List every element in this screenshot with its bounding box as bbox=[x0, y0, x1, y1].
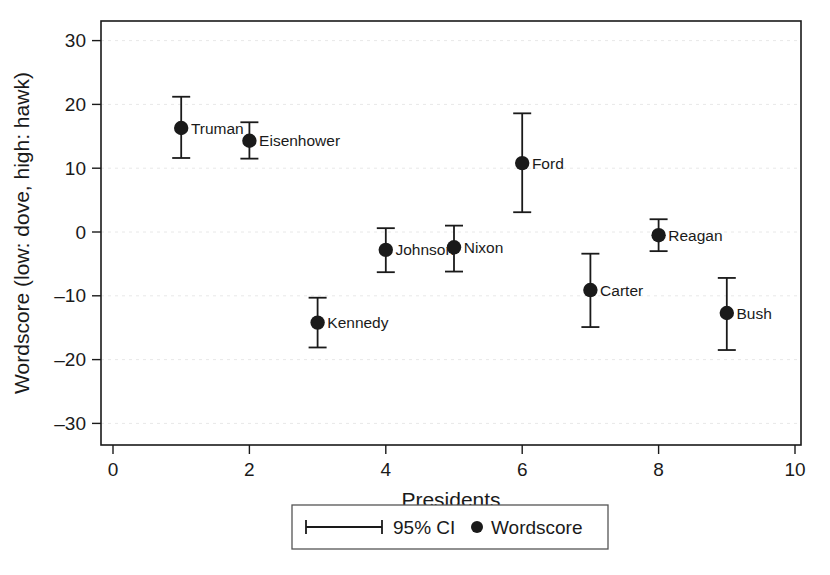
data-points: TrumanEisenhowerKennedyJohnsonNixonFordC… bbox=[172, 97, 772, 350]
x-tick-label-10: 10 bbox=[784, 459, 805, 480]
y-axis-title: Wordscore (low: dove, high: hawk) bbox=[10, 72, 33, 394]
x-axis-ticks: 0246810 bbox=[108, 445, 806, 480]
point-label-kennedy: Kennedy bbox=[327, 314, 388, 331]
y-axis-ticks: 3020100–10–20–30 bbox=[54, 30, 101, 434]
x-tick-label-8: 8 bbox=[653, 459, 664, 480]
data-point-nixon: Nixon bbox=[445, 226, 503, 272]
point-label-nixon: Nixon bbox=[464, 239, 504, 256]
marker-carter bbox=[583, 283, 597, 297]
marker-kennedy bbox=[310, 315, 324, 329]
point-label-truman: Truman bbox=[191, 120, 244, 137]
data-point-bush: Bush bbox=[718, 278, 772, 350]
marker-reagan bbox=[651, 228, 665, 242]
point-label-reagan: Reagan bbox=[668, 227, 722, 244]
y-tick-label--20: –20 bbox=[54, 349, 86, 370]
wordscore-presidents-figure: 3020100–10–20–30 0246810 Wordscore (low:… bbox=[0, 0, 830, 575]
y-tick-label-30: 30 bbox=[65, 30, 86, 51]
point-label-carter: Carter bbox=[600, 282, 643, 299]
legend-marker-dot bbox=[471, 521, 483, 533]
point-label-eisenhower: Eisenhower bbox=[259, 132, 340, 149]
data-point-carter: Carter bbox=[581, 254, 643, 327]
chart-canvas: 3020100–10–20–30 0246810 Wordscore (low:… bbox=[0, 0, 830, 575]
y-tick-label--30: –30 bbox=[54, 413, 86, 434]
y-tick-label-10: 10 bbox=[65, 158, 86, 179]
data-point-kennedy: Kennedy bbox=[309, 298, 389, 348]
x-tick-label-4: 4 bbox=[381, 459, 392, 480]
point-label-ford: Ford bbox=[532, 155, 564, 172]
marker-eisenhower bbox=[242, 134, 256, 148]
legend-label-wordscore: Wordscore bbox=[491, 517, 583, 538]
marker-truman bbox=[174, 121, 188, 135]
marker-ford bbox=[515, 156, 529, 170]
x-tick-label-6: 6 bbox=[517, 459, 528, 480]
marker-johnson bbox=[379, 243, 393, 257]
y-tick-label-0: 0 bbox=[75, 222, 86, 243]
point-label-johnson: Johnson bbox=[396, 241, 455, 258]
x-tick-label-2: 2 bbox=[244, 459, 255, 480]
y-tick-label-20: 20 bbox=[65, 94, 86, 115]
legend-label-ci: 95% CI bbox=[393, 517, 455, 538]
x-tick-label-0: 0 bbox=[108, 459, 119, 480]
data-point-truman: Truman bbox=[172, 97, 244, 158]
marker-nixon bbox=[447, 240, 461, 254]
chart-legend: 95% CIWordscore bbox=[292, 505, 608, 549]
y-tick-label--10: –10 bbox=[54, 285, 86, 306]
data-point-reagan: Reagan bbox=[650, 219, 723, 251]
data-point-ford: Ford bbox=[513, 113, 564, 212]
point-label-bush: Bush bbox=[737, 305, 772, 322]
marker-bush bbox=[720, 306, 734, 320]
data-point-eisenhower: Eisenhower bbox=[240, 122, 340, 158]
data-point-johnson: Johnson bbox=[377, 228, 454, 272]
